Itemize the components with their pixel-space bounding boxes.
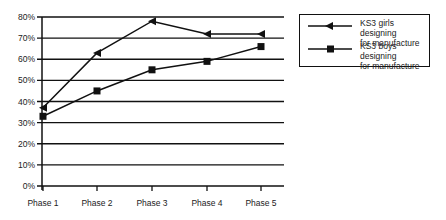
y-tick-label: 30% [18,118,35,128]
triangle-marker-icon [203,30,211,38]
legend-item-girls: KS3 girls designingfor manufacture [300,18,429,42]
x-tick-label: Phase 2 [81,198,112,208]
square-marker-icon [204,58,211,65]
y-tick-label: 20% [18,139,35,149]
x-tick-label: Phase 4 [191,198,222,208]
y-tick-label: 40% [18,97,35,107]
data-series [39,17,265,120]
series-line [43,47,261,117]
x-tick-label: Phase 1 [27,198,58,208]
legend-label-boys: KS3 boys designingfor manufacture [360,41,430,71]
square-marker-icon [149,66,156,73]
y-tick-label: 60% [18,54,35,64]
square-marker-icon [94,87,101,94]
square-marker-icon [40,113,47,120]
square-marker-icon [308,44,352,54]
triangle-marker-icon [39,104,47,112]
x-axis: Phase 1Phase 2Phase 3Phase 4Phase 5 [27,186,276,208]
triangle-marker-icon [257,30,265,38]
legend: KS3 girls designingfor manufacture KS3 b… [299,14,430,67]
triangle-marker-icon [308,21,352,31]
y-tick-label: 10% [18,160,35,170]
x-tick-label: Phase 3 [136,198,167,208]
series-line [43,21,261,108]
x-tick-label: Phase 5 [245,198,276,208]
triangle-marker-icon [148,17,156,25]
y-tick-label: 80% [18,12,35,22]
square-marker-icon [258,43,265,50]
y-tick-label: 70% [18,33,35,43]
y-tick-label: 0% [23,181,36,191]
y-tick-label: 50% [18,75,35,85]
legend-item-boys: KS3 boys designingfor manufacture [300,41,429,65]
